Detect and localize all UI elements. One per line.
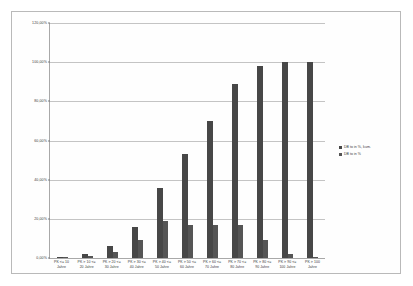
bar-group xyxy=(275,23,300,258)
legend-entry: DB to in % xyxy=(339,152,371,156)
chart-figure: 120,00%100,00%80,00%60,00%40,00%20,00%0,… xyxy=(11,11,401,274)
bar-group xyxy=(150,23,175,258)
x-axis-tick-label: PK <= 10 Jahre xyxy=(49,260,74,269)
legend-label: DB to in %, kum. xyxy=(344,145,371,149)
legend-label: DB to in % xyxy=(344,152,361,156)
legend-swatch-icon xyxy=(339,153,342,156)
bar xyxy=(63,257,69,258)
bar xyxy=(307,62,313,258)
y-axis-tick-label: 80,00% xyxy=(34,99,47,103)
x-axis-labels: PK <= 10 JahrePK > 10 <= 20 JahrePK > 20… xyxy=(49,260,325,269)
bar-group xyxy=(75,23,100,258)
bar xyxy=(282,62,288,258)
x-axis-tick-label: PK > 100 Jahre xyxy=(300,260,325,269)
plot-area: 120,00%100,00%80,00%60,00%40,00%20,00%0,… xyxy=(49,23,325,259)
x-axis-tick-label: PK > 20 <= 30 Jahre xyxy=(99,260,124,269)
y-axis-tick-label: 20,00% xyxy=(34,217,47,221)
x-axis-tick-label: PK > 80 <= 90 Jahre xyxy=(250,260,275,269)
bar xyxy=(188,225,194,258)
x-axis-tick-label: PK > 50 <= 60 Jahre xyxy=(174,260,199,269)
y-axis-tick-label: 40,00% xyxy=(34,178,47,182)
bar-group xyxy=(125,23,150,258)
y-axis-tick-label: 120,00% xyxy=(32,21,47,25)
bar xyxy=(113,252,119,258)
x-axis-tick-label: PK > 60 <= 70 Jahre xyxy=(200,260,225,269)
bar-group xyxy=(200,23,225,258)
bar xyxy=(88,256,94,258)
x-axis-tick-label: PK > 40 <= 50 Jahre xyxy=(149,260,174,269)
y-axis-tick-label: 100,00% xyxy=(32,60,47,64)
legend-entry: DB to in %, kum. xyxy=(339,145,371,149)
bar xyxy=(238,225,244,258)
bar xyxy=(257,66,263,258)
bar-group xyxy=(100,23,125,258)
legend-swatch-icon xyxy=(339,146,342,149)
bar xyxy=(313,257,319,258)
bar-group xyxy=(225,23,250,258)
x-axis-tick-label: PK > 90 <= 100 Jahre xyxy=(275,260,300,269)
x-axis-tick-label: PK > 10 <= 20 Jahre xyxy=(74,260,99,269)
y-axis-tick-label: 60,00% xyxy=(34,139,47,143)
bar-group xyxy=(50,23,75,258)
bar xyxy=(263,240,269,258)
bar-group xyxy=(175,23,200,258)
x-axis-tick-label: PK > 30 <= 40 Jahre xyxy=(124,260,149,269)
bar-series-layer xyxy=(50,23,325,258)
chart-legend: DB to in %, kum.DB to in % xyxy=(339,145,371,156)
y-axis-tick-label: 0,00% xyxy=(36,256,47,260)
bar-group xyxy=(300,23,325,258)
bar-group xyxy=(250,23,275,258)
bar xyxy=(138,240,144,258)
bar xyxy=(213,225,219,258)
bar xyxy=(288,254,294,258)
x-axis-tick-label: PK > 70 <= 80 Jahre xyxy=(225,260,250,269)
bar xyxy=(163,221,169,258)
